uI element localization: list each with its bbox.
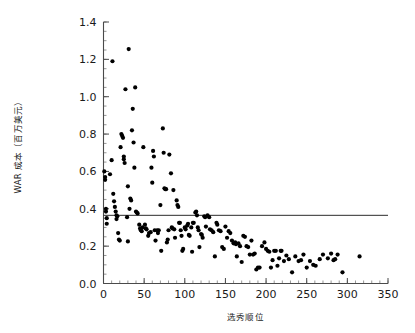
scatter-point — [340, 270, 344, 274]
scatter-point — [129, 198, 133, 202]
scatter-point — [301, 252, 305, 256]
scatter-point — [207, 215, 211, 219]
scatter-point — [169, 171, 173, 175]
scatter-point — [110, 158, 114, 162]
scatter-point — [113, 205, 117, 209]
scatter-point — [249, 238, 253, 242]
scatter-point — [173, 236, 177, 240]
scatter-point — [194, 209, 198, 213]
scatter-point — [127, 207, 131, 211]
y-axis-tick-label: 0.6 — [79, 165, 97, 178]
scatter-point — [158, 203, 162, 207]
scatter-point — [357, 254, 361, 258]
scatter-point — [178, 221, 182, 225]
scatter-point — [274, 249, 278, 253]
scatter-point — [125, 215, 129, 219]
plot-area: 050100150200250300350 0.00.20.40.60.81.0… — [0, 0, 415, 333]
scatter-point — [140, 229, 144, 233]
scatter-point — [186, 222, 190, 226]
scatter-point — [225, 236, 229, 240]
scatter-chart-figure: WAR 成本（百万美元） 选秀顺位 050100150200250300350 … — [0, 0, 415, 333]
scatter-point — [130, 128, 134, 132]
y-axis-tick-label: 0.0 — [79, 278, 97, 291]
scatter-point — [197, 245, 201, 249]
y-axis-tick-label: 0.2 — [79, 240, 97, 253]
scatter-point — [329, 252, 333, 256]
scatter-point — [228, 231, 232, 235]
scatter-point — [293, 254, 297, 258]
scatter-point — [115, 214, 119, 218]
scatter-point — [164, 187, 168, 191]
scatter-point — [127, 47, 131, 51]
scatter-point — [270, 258, 274, 262]
x-axis-tick-label: 100 — [174, 288, 195, 301]
scatter-point — [162, 151, 166, 155]
x-axis-tick-labels: 050100150200250300350 — [100, 288, 399, 301]
scatter-point — [111, 192, 115, 196]
scatter-point — [166, 238, 170, 242]
y-axis-tick-label: 1.2 — [79, 53, 97, 66]
scatter-point — [126, 184, 130, 188]
scatter-point — [123, 87, 127, 91]
scatter-point — [161, 126, 165, 130]
scatter-point — [181, 247, 185, 251]
scatter-point — [144, 227, 148, 231]
scatter-point — [201, 236, 205, 240]
scatter-point — [152, 154, 156, 158]
scatter-point — [326, 256, 330, 260]
scatter-point — [192, 221, 196, 225]
scatter-point — [114, 209, 118, 213]
scatter-point — [287, 257, 291, 261]
scatter-point — [190, 250, 194, 254]
scatter-point — [222, 247, 226, 251]
scatter-point — [213, 254, 217, 258]
x-axis-tick-label: 300 — [337, 288, 358, 301]
scatter-point — [257, 266, 261, 270]
scatter-point — [195, 213, 199, 217]
x-axis-tick-label: 50 — [137, 288, 151, 301]
scatter-point — [151, 149, 155, 153]
scatter-point — [112, 199, 116, 203]
scatter-point — [282, 259, 286, 263]
scatter-point — [108, 172, 112, 176]
scatter-point — [157, 228, 161, 232]
y-axis-tick-label: 1.4 — [79, 16, 97, 29]
scatter-point — [277, 256, 281, 260]
y-axis-tick-label: 0.4 — [79, 203, 97, 216]
scatter-point — [336, 252, 340, 256]
scatter-point — [136, 211, 140, 215]
scatter-point — [183, 227, 187, 231]
scatter-point — [118, 145, 122, 149]
y-axis-tick-label: 0.8 — [79, 128, 97, 141]
scatter-point — [132, 166, 136, 170]
scatter-point — [149, 166, 153, 170]
scatter-point — [321, 252, 325, 256]
scatter-point — [246, 245, 250, 249]
scatter-point — [166, 228, 170, 232]
scatter-point — [159, 249, 163, 253]
scatter-point — [141, 145, 145, 149]
scatter-point — [305, 266, 309, 270]
x-axis-tick-label: 250 — [296, 288, 317, 301]
scatter-point — [150, 181, 154, 185]
scatter-point — [149, 230, 153, 234]
scatter-point — [290, 270, 294, 274]
y-axis-tick-label: 1.0 — [79, 91, 97, 104]
scatter-point — [110, 59, 114, 63]
scatter-point — [235, 254, 239, 258]
scatter-point — [172, 227, 176, 231]
scatter-point — [197, 228, 201, 232]
scatter-point — [275, 264, 279, 268]
x-axis-tick-label: 150 — [215, 288, 236, 301]
scatter-point — [223, 224, 227, 228]
scatter-point — [279, 249, 283, 253]
scatter-point — [176, 205, 180, 209]
scatter-point — [118, 238, 122, 242]
scatter-point — [104, 209, 108, 213]
scatter-point — [269, 266, 273, 270]
scatter-point — [167, 153, 171, 157]
scatter-point — [243, 235, 247, 239]
scatter-point — [211, 230, 215, 234]
scatter-point — [299, 258, 303, 262]
scatter-point — [122, 157, 126, 161]
